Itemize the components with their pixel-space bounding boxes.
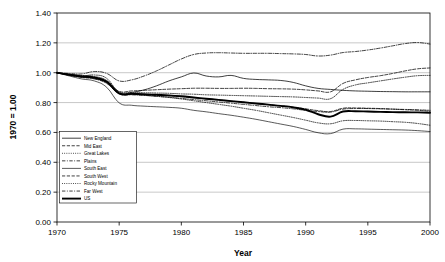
y-tick-label: 0.80 xyxy=(35,99,51,108)
y-tick-label: 1.00 xyxy=(35,69,51,78)
chart-legend: New EnglandMid EastGreat LakesPlainsSout… xyxy=(60,132,137,204)
x-tick-label: 2000 xyxy=(421,228,439,237)
x-axis-title: Year xyxy=(234,248,253,258)
y-tick-label: 0.60 xyxy=(35,128,51,137)
x-axis-tick-labels: 1970197519801985199019952000 xyxy=(48,228,439,237)
x-tick-label: 1990 xyxy=(297,228,315,237)
legend-label: Mid East xyxy=(84,144,103,149)
legend-label: Far West xyxy=(84,189,103,194)
y-tick-label: 0.00 xyxy=(35,218,51,227)
legend-label: South West xyxy=(84,174,108,179)
x-axis-tickmarks xyxy=(57,222,430,226)
y-tick-label: 0.40 xyxy=(35,158,51,167)
x-tick-label: 1975 xyxy=(110,228,128,237)
y-axis-title: 1970 = 1.00 xyxy=(8,94,18,139)
line-chart: 0.000.200.400.600.801.001.201.40 1970197… xyxy=(0,0,445,262)
x-tick-label: 1985 xyxy=(235,228,253,237)
x-tick-label: 1980 xyxy=(172,228,190,237)
legend-label: Plains xyxy=(84,159,97,164)
y-tick-label: 1.20 xyxy=(35,39,51,48)
y-axis-tick-labels: 0.000.200.400.600.801.001.201.40 xyxy=(35,9,51,227)
y-axis-tickmarks xyxy=(54,13,58,222)
x-tick-label: 1995 xyxy=(359,228,377,237)
y-tick-label: 0.20 xyxy=(35,188,51,197)
x-tick-label: 1970 xyxy=(48,228,66,237)
legend-label: Great Lakes xyxy=(84,151,110,156)
legend-label: New England xyxy=(84,136,112,141)
chart-container: 0.000.200.400.600.801.001.201.40 1970197… xyxy=(0,0,445,262)
legend-label: US xyxy=(84,196,90,201)
y-tick-label: 1.40 xyxy=(35,9,51,18)
legend-label: Rocky Mountain xyxy=(84,181,117,186)
legend-label: South East xyxy=(84,166,107,171)
